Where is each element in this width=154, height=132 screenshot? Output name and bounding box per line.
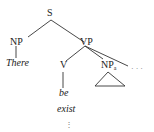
syntax-tree: S NP VP V NPa · · · There be exist ⋮ [0, 0, 154, 132]
node-vp: VP [80, 36, 93, 47]
node-np-a: NPa [101, 59, 117, 71]
edge-vp-np-a [85, 46, 103, 59]
leaf-exist: exist [57, 103, 76, 114]
node-s: S [47, 7, 53, 18]
leaf-there: There [6, 57, 30, 68]
node-np: NP [10, 36, 23, 47]
node-ellipsis: · · · [131, 64, 143, 73]
leaf-continuation: ⋮ [65, 120, 73, 129]
node-v: V [60, 59, 68, 70]
node-np-a-label: NP [101, 59, 114, 70]
edge-s-np [28, 20, 51, 37]
leaf-be: be [59, 87, 69, 98]
edge-vp-v [66, 46, 85, 61]
subtree-triangle [95, 72, 125, 86]
node-np-a-subscript: a [114, 65, 117, 71]
